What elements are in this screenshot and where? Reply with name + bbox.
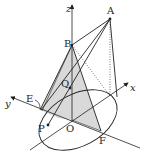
point-A	[109, 18, 112, 21]
cone-diagram: z x y A B Q E P O F	[0, 0, 141, 161]
label-z-axis: z	[65, 3, 72, 14]
label-A: A	[106, 5, 115, 16]
label-B: B	[64, 38, 71, 49]
label-F: F	[99, 135, 106, 146]
label-P: P	[38, 123, 45, 134]
label-Q: Q	[61, 78, 69, 89]
label-O: O	[66, 123, 74, 134]
edge-A-tangent	[110, 19, 117, 97]
label-E: E	[26, 93, 33, 104]
point-P	[47, 124, 50, 127]
edge-B-A	[72, 19, 110, 45]
label-x-axis: x	[130, 82, 136, 93]
label-y-axis: y	[4, 98, 11, 109]
